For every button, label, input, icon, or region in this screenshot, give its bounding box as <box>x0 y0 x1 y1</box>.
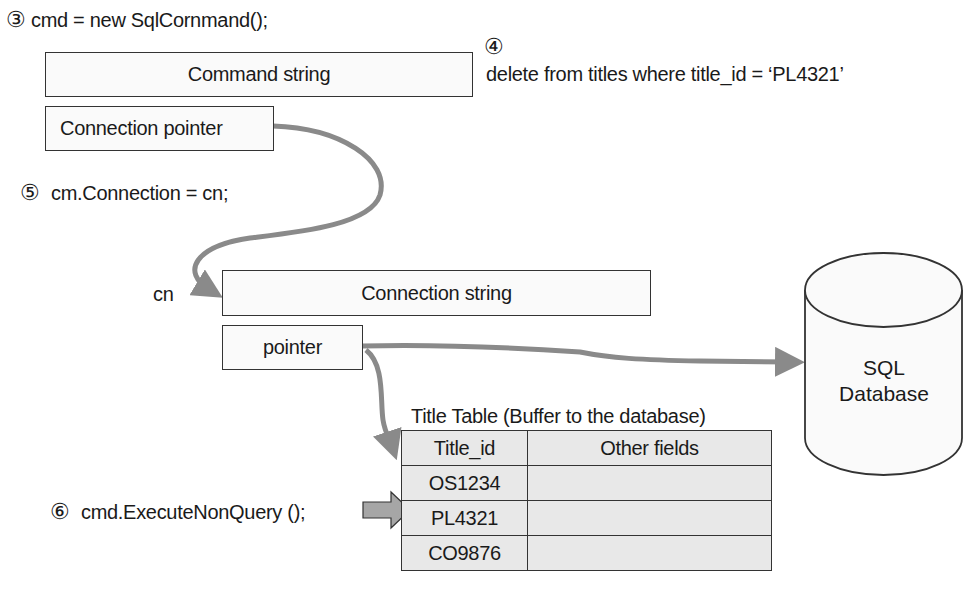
cell-title-id: OS1234 <box>402 466 528 501</box>
pointer-box: pointer <box>222 325 363 370</box>
connection-string-box: Connection string <box>222 270 651 316</box>
database-label-line1: SQL <box>805 355 963 381</box>
step5-line: ⑤ cm.Connection = cn; <box>20 180 228 206</box>
cell-other-fields <box>528 466 772 501</box>
pointer-to-table-arrow <box>366 350 392 446</box>
table-row-highlighted: PL4321 <box>402 501 772 536</box>
connection-pointer-box: Connection pointer <box>45 106 274 151</box>
pointer-to-database-arrow <box>362 345 790 362</box>
command-string-label: Command string <box>188 63 331 86</box>
cell-title-id: CO9876 <box>402 536 528 571</box>
command-string-box: Command string <box>45 52 473 97</box>
table-row: OS1234 <box>402 466 772 501</box>
connection-pointer-label: Connection pointer <box>60 117 223 140</box>
step6-line: ⑥ cmd.ExecuteNonQuery (); <box>50 499 305 525</box>
cell-other-fields <box>528 501 772 536</box>
cell-title-id: PL4321 <box>402 501 528 536</box>
step6-code: cmd.ExecuteNonQuery (); <box>81 501 305 523</box>
database-label-line2: Database <box>805 381 963 407</box>
cell-other-fields <box>528 536 772 571</box>
connection-string-label: Connection string <box>361 282 512 305</box>
title-table-caption: Title Table (Buffer to the database) <box>411 405 706 428</box>
table-header-row: Title_id Other fields <box>402 431 772 466</box>
column-header-title-id: Title_id <box>402 431 528 466</box>
step6-number: ⑥ <box>50 499 70 524</box>
step5-code: cm.Connection = cn; <box>51 182 228 204</box>
pointer-label: pointer <box>263 336 322 359</box>
title-table: Title_id Other fields OS1234 PL4321 CO98… <box>401 430 772 571</box>
cn-variable-label: cn <box>153 283 174 306</box>
step4-sql: delete from titles where title_id = ‘PL4… <box>486 63 844 86</box>
column-header-other-fields: Other fields <box>528 431 772 466</box>
table-row: CO9876 <box>402 536 772 571</box>
step3-number: ③ <box>6 7 26 32</box>
step5-number: ⑤ <box>20 180 40 205</box>
step4-number: ④ <box>484 34 504 60</box>
step3-code: cmd = new SqlCornmand(); <box>31 9 268 31</box>
database-label: SQL Database <box>805 355 963 407</box>
step3-line: ③ cmd = new SqlCornmand(); <box>6 7 268 33</box>
